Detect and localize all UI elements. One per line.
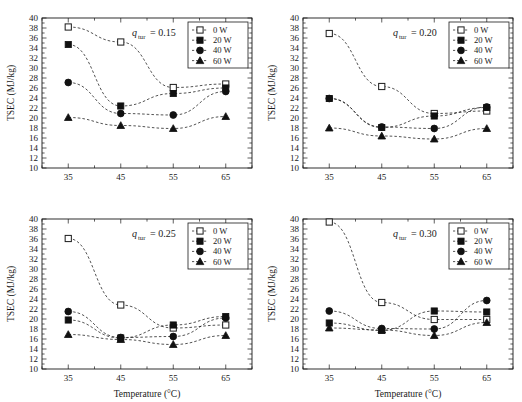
series-line bbox=[68, 117, 226, 129]
legend: 0 W20 W40 W60 W bbox=[188, 223, 248, 269]
data-point bbox=[64, 331, 72, 338]
chart-panel-a: 1012141618202224262830323436384035455565… bbox=[0, 0, 261, 201]
data-point bbox=[326, 308, 333, 315]
x-tick-label: 45 bbox=[116, 172, 126, 182]
series-line bbox=[329, 311, 487, 331]
legend-label: 60 W bbox=[474, 257, 494, 267]
legend-marker bbox=[458, 47, 465, 54]
y-tick-label: 38 bbox=[29, 23, 39, 33]
y-tick-label: 28 bbox=[290, 274, 300, 284]
legend-marker bbox=[458, 37, 464, 43]
y-tick-label: 38 bbox=[290, 23, 300, 33]
y-tick-label: 36 bbox=[29, 33, 39, 43]
y-tick-label: 24 bbox=[29, 294, 39, 304]
legend-label: 60 W bbox=[474, 56, 494, 66]
y-tick-label: 10 bbox=[290, 364, 300, 374]
data-point bbox=[483, 125, 491, 132]
series-line bbox=[68, 317, 226, 339]
legend-marker bbox=[458, 248, 465, 255]
x-tick-label: 35 bbox=[64, 172, 74, 182]
y-tick-label: 34 bbox=[29, 244, 39, 254]
y-tick-label: 40 bbox=[29, 214, 39, 224]
y-tick-label: 38 bbox=[290, 224, 300, 234]
panel-title-variable: q bbox=[393, 27, 398, 38]
data-point bbox=[170, 90, 176, 96]
series-40-w bbox=[326, 297, 490, 332]
panel-title: qtur= 0.30 bbox=[393, 228, 437, 241]
panel-title-subscript: tur bbox=[399, 33, 407, 40]
y-tick-label: 28 bbox=[29, 274, 39, 284]
series-60-w bbox=[325, 319, 490, 339]
legend-label: 0 W bbox=[474, 226, 489, 236]
x-tick-label: 55 bbox=[169, 373, 179, 383]
x-tick-label: 45 bbox=[116, 373, 126, 383]
data-point bbox=[170, 112, 177, 119]
x-tick-label: 65 bbox=[482, 373, 492, 383]
data-point bbox=[379, 299, 385, 305]
plot-q-tur-0-15: 1012141618202224262830323436384035455565… bbox=[0, 0, 261, 201]
panel-title: qtur= 0.25 bbox=[132, 228, 176, 241]
data-point bbox=[223, 322, 229, 328]
legend-marker bbox=[197, 27, 203, 33]
series-20-w bbox=[326, 308, 490, 334]
y-tick-label: 34 bbox=[290, 244, 300, 254]
x-tick-label: 45 bbox=[377, 373, 387, 383]
y-tick-label: 36 bbox=[290, 234, 300, 244]
series-line bbox=[68, 335, 226, 345]
y-tick-label: 28 bbox=[29, 73, 39, 83]
plot-q-tur-0-30: 1012141618202224262830323436384035455565… bbox=[261, 201, 522, 402]
data-point bbox=[378, 132, 386, 139]
x-axis-title: Temperature (°C) bbox=[375, 389, 442, 400]
data-point bbox=[118, 103, 124, 109]
y-tick-label: 30 bbox=[290, 63, 300, 73]
data-point bbox=[483, 104, 490, 111]
series-60-w bbox=[64, 331, 229, 348]
series-60-w bbox=[64, 113, 229, 132]
y-tick-label: 16 bbox=[290, 133, 300, 143]
data-point bbox=[118, 302, 124, 308]
panel-title: qtur= 0.15 bbox=[132, 27, 176, 40]
legend-label: 40 W bbox=[213, 246, 233, 256]
data-point bbox=[326, 219, 332, 225]
panel-title-value: = 0.20 bbox=[411, 27, 437, 38]
y-tick-label: 16 bbox=[29, 334, 39, 344]
x-tick-label: 55 bbox=[430, 172, 440, 182]
data-point bbox=[170, 84, 176, 90]
data-point bbox=[65, 24, 71, 30]
data-point bbox=[326, 95, 333, 102]
series-line bbox=[329, 128, 487, 139]
y-tick-label: 14 bbox=[290, 143, 300, 153]
y-axis-title: TSEC (MJ/kg) bbox=[267, 266, 278, 322]
legend-label: 20 W bbox=[213, 35, 233, 45]
data-point bbox=[117, 122, 125, 129]
x-axis-title: Temperature (°C) bbox=[114, 389, 181, 400]
x-tick-label: 65 bbox=[221, 373, 231, 383]
data-point bbox=[431, 316, 437, 322]
y-tick-label: 34 bbox=[290, 43, 300, 53]
x-tick-label: 55 bbox=[430, 373, 440, 383]
y-tick-label: 20 bbox=[29, 113, 39, 123]
y-tick-label: 34 bbox=[29, 43, 39, 53]
y-tick-label: 24 bbox=[290, 93, 300, 103]
y-tick-label: 18 bbox=[29, 123, 39, 133]
data-point bbox=[222, 315, 229, 322]
series-line bbox=[329, 99, 487, 128]
legend-label: 20 W bbox=[213, 236, 233, 246]
y-tick-label: 26 bbox=[29, 83, 39, 93]
series-line bbox=[68, 312, 226, 338]
y-tick-label: 24 bbox=[29, 93, 39, 103]
data-point bbox=[484, 309, 490, 315]
y-tick-label: 12 bbox=[290, 354, 299, 364]
y-tick-label: 18 bbox=[290, 123, 300, 133]
x-tick-label: 65 bbox=[482, 172, 492, 182]
x-tick-label: 65 bbox=[221, 172, 231, 182]
y-tick-label: 38 bbox=[29, 224, 39, 234]
data-point bbox=[117, 110, 124, 117]
data-point bbox=[326, 30, 332, 36]
y-tick-label: 26 bbox=[290, 83, 300, 93]
y-tick-label: 22 bbox=[290, 304, 299, 314]
data-point bbox=[64, 114, 72, 121]
legend-label: 60 W bbox=[213, 56, 233, 66]
data-point bbox=[222, 113, 230, 120]
y-tick-label: 20 bbox=[290, 314, 300, 324]
